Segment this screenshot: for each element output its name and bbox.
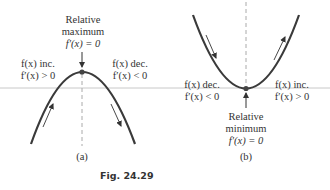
min-title: Relative minimum f′(x) = 0 — [221, 111, 271, 147]
figure-caption: Fig. 24.29 — [100, 170, 154, 181]
a-right-line1: f(x) dec. — [108, 58, 152, 70]
min-title-line1: Relative — [221, 111, 271, 123]
min-title-line3: f′(x) = 0 — [221, 135, 271, 147]
a-right-annotation: f(x) dec. f′(x) < 0 — [108, 58, 152, 82]
increasing-arrow-icon-a — [43, 104, 53, 127]
b-left-line2: f′(x) < 0 — [180, 91, 224, 103]
downward-parabola-curve — [31, 72, 135, 144]
a-left-line2: f′(x) > 0 — [16, 70, 60, 82]
b-right-line1: f(x) inc. — [270, 79, 314, 91]
b-right-annotation: f(x) inc. f′(x) > 0 — [270, 79, 314, 103]
max-title-line1: Relative — [58, 14, 108, 26]
min-title-line2: minimum — [221, 123, 271, 135]
b-left-line1: f(x) dec. — [180, 79, 224, 91]
b-right-line2: f′(x) > 0 — [270, 91, 314, 103]
minimum-point-dot — [243, 86, 248, 91]
a-left-line1: f(x) inc. — [16, 58, 60, 70]
a-right-line2: f′(x) < 0 — [108, 70, 152, 82]
maximum-point-dot — [79, 69, 84, 74]
increasing-arrow-icon-b — [274, 37, 285, 60]
max-title-line3: f′(x) = 0 — [58, 38, 108, 50]
b-left-annotation: f(x) dec. f′(x) < 0 — [180, 79, 224, 103]
max-title-line2: maximum — [58, 26, 108, 38]
a-left-annotation: f(x) inc. f′(x) > 0 — [16, 58, 60, 82]
panel-a-label: (a) — [70, 151, 94, 163]
panel-b-label: (b) — [234, 151, 258, 163]
max-title: Relative maximum f′(x) = 0 — [58, 14, 108, 50]
